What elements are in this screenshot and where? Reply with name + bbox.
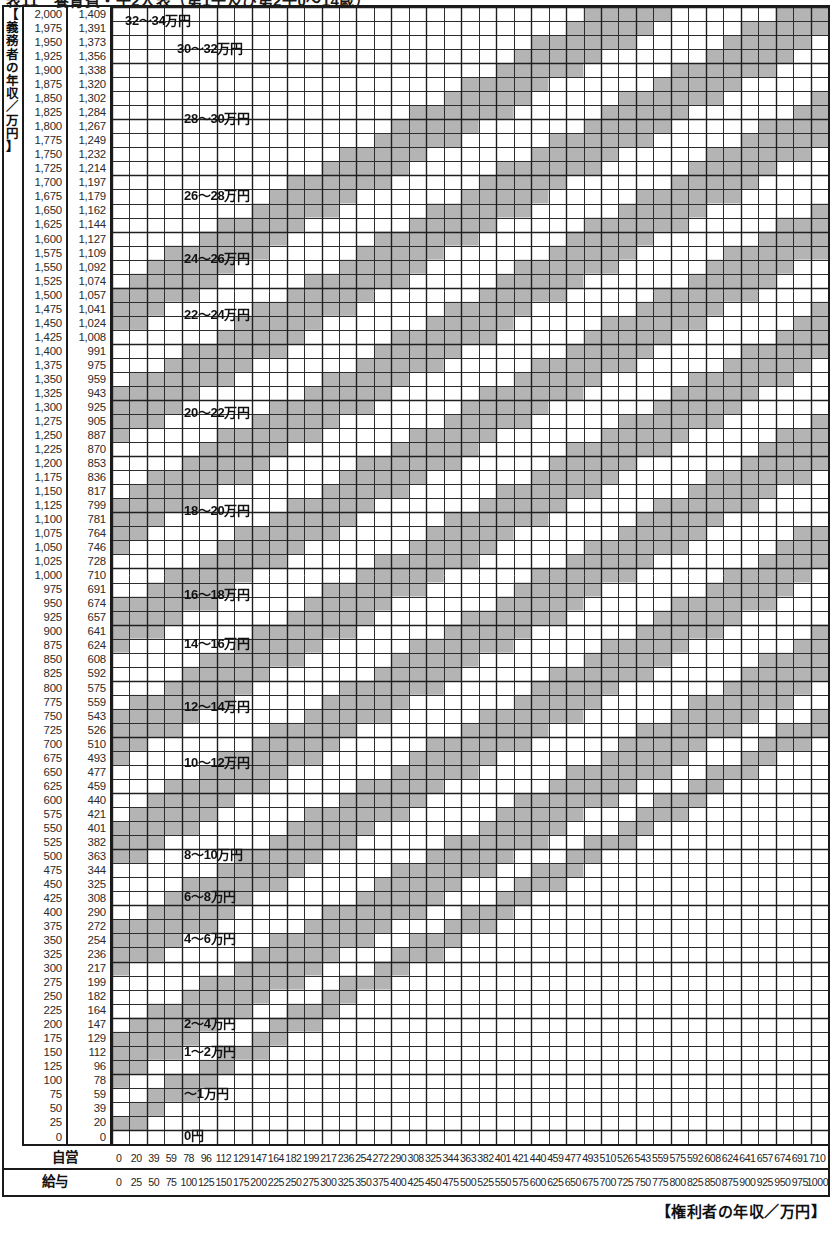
y-axis-salary-tick: 1,175 xyxy=(24,470,66,484)
y-axis-self-employed-tick: 870 xyxy=(68,442,110,456)
y-axis-self-employed-tick: 1,179 xyxy=(68,189,110,203)
y-axis-self-employed-tick: 959 xyxy=(68,372,110,386)
y-axis-self-employed-tick: 1,302 xyxy=(68,91,110,105)
y-axis-salary-tick: 675 xyxy=(24,751,66,765)
y-axis-self-employed-tick: 308 xyxy=(68,891,110,905)
y-axis-salary-tick: 1,675 xyxy=(24,189,66,203)
y-axis-self-employed-tick: 674 xyxy=(68,596,110,610)
band-label: 18～20万円 xyxy=(184,504,250,518)
x-axis-salary-label: 給与 xyxy=(2,1170,108,1194)
y-axis-salary-tick: 1,300 xyxy=(24,400,66,414)
y-axis-caption-char: 万 xyxy=(3,115,22,128)
y-axis-salary-tick: 1,875 xyxy=(24,77,66,91)
y-axis-salary-tick: 1,825 xyxy=(24,105,66,119)
y-axis-salary-tick: 725 xyxy=(24,723,66,737)
y-axis-salary-tick: 1,125 xyxy=(24,498,66,512)
y-axis-salary-tick: 1,050 xyxy=(24,540,66,554)
band-label: 0円 xyxy=(184,1129,204,1143)
y-axis-salary-tick: 575 xyxy=(24,807,66,821)
y-axis-self-employed-tick: 164 xyxy=(68,1003,110,1017)
heatmap-plot-area: 0円～1万円1～2万円2～4万円4～6万円6～8万円8～10万円10～12万円1… xyxy=(110,7,828,1144)
band-label: ～1万円 xyxy=(184,1087,229,1101)
band-label: 32～34万円 xyxy=(125,14,191,28)
y-axis-self-employed-tick: 1,127 xyxy=(68,232,110,246)
y-axis-salary-tick: 125 xyxy=(24,1059,66,1073)
y-axis-self-employed-tick: 710 xyxy=(68,568,110,582)
band-label: 28～30万円 xyxy=(184,112,250,126)
y-axis-self-employed-tick: 543 xyxy=(68,709,110,723)
y-axis-salary-tick: 1,700 xyxy=(24,175,66,189)
y-axis-salary-tick: 1,750 xyxy=(24,147,66,161)
y-axis-self-employed-tick: 746 xyxy=(68,540,110,554)
y-axis-salary-tick: 1,000 xyxy=(24,568,66,582)
y-axis-salary-tick: 1,275 xyxy=(24,414,66,428)
y-axis-salary-tick: 1,925 xyxy=(24,49,66,63)
y-axis-salary-tick: 1,450 xyxy=(24,316,66,330)
y-axis-salary-tick: 1,425 xyxy=(24,330,66,344)
x-axis-salary-tick: 1000 xyxy=(804,1170,830,1194)
y-axis-self-employed-tick: 1,373 xyxy=(68,35,110,49)
y-axis-caption-char: 者 xyxy=(3,49,22,62)
y-axis-salary-tick: 1,800 xyxy=(24,119,66,133)
y-axis-salary-tick: 325 xyxy=(24,947,66,961)
y-axis-self-employed-tick: 382 xyxy=(68,835,110,849)
y-axis-salary-tick: 1,725 xyxy=(24,161,66,175)
band-label: 16～18万円 xyxy=(184,588,250,602)
y-axis-self-employed-column: 1,4091,3911,3731,3561,3381,3201,3021,284… xyxy=(66,7,110,1144)
y-axis-salary-tick: 975 xyxy=(24,582,66,596)
y-axis-salary-tick: 775 xyxy=(24,695,66,709)
y-axis-salary-tick: 700 xyxy=(24,737,66,751)
y-axis-salary-tick: 1,250 xyxy=(24,428,66,442)
y-axis-salary-tick: 175 xyxy=(24,1031,66,1045)
y-axis-self-employed-tick: 78 xyxy=(68,1073,110,1087)
y-axis-self-employed-tick: 325 xyxy=(68,877,110,891)
band-label: 10～12万円 xyxy=(184,756,250,770)
y-axis-self-employed-tick: 1,267 xyxy=(68,119,110,133)
y-axis-salary-tick: 275 xyxy=(24,975,66,989)
y-axis-salary-tick: 525 xyxy=(24,835,66,849)
y-axis-salary-tick: 1,475 xyxy=(24,302,66,316)
y-axis-self-employed-tick: 510 xyxy=(68,737,110,751)
y-axis-salary-tick: 625 xyxy=(24,779,66,793)
y-axis-salary-tick: 1,200 xyxy=(24,456,66,470)
y-axis-caption-char: 務 xyxy=(3,35,22,48)
y-axis-salary-tick: 750 xyxy=(24,709,66,723)
y-axis-salary-tick: 25 xyxy=(24,1115,66,1129)
y-axis-salary-tick: 1,400 xyxy=(24,344,66,358)
y-axis-salary-tick: 1,225 xyxy=(24,442,66,456)
x-axis-caption: 【権利者の年収／万円】 xyxy=(656,1200,827,1221)
y-axis-salary-tick: 1,900 xyxy=(24,63,66,77)
y-axis-self-employed-tick: 1,057 xyxy=(68,288,110,302)
band-label: 20～22万円 xyxy=(184,406,250,420)
y-axis-self-employed-tick: 401 xyxy=(68,821,110,835)
y-axis-self-employed-tick: 817 xyxy=(68,484,110,498)
y-axis-self-employed-tick: 728 xyxy=(68,554,110,568)
y-axis-self-employed-tick: 641 xyxy=(68,624,110,638)
y-axis-salary-tick: 1,150 xyxy=(24,484,66,498)
y-axis-self-employed-tick: 1,338 xyxy=(68,63,110,77)
y-axis-salary-tick: 1,650 xyxy=(24,203,66,217)
y-axis-salary-tick: 1,325 xyxy=(24,386,66,400)
y-axis-self-employed-tick: 1,232 xyxy=(68,147,110,161)
y-axis-self-employed-tick: 836 xyxy=(68,470,110,484)
y-axis-self-employed-tick: 1,409 xyxy=(68,7,110,21)
y-axis-self-employed-tick: 1,391 xyxy=(68,21,110,35)
y-axis-salary-tick: 2,000 xyxy=(24,7,66,21)
y-axis-salary-tick: 400 xyxy=(24,905,66,919)
y-axis-salary-tick: 300 xyxy=(24,961,66,975)
y-axis-self-employed-tick: 1,074 xyxy=(68,274,110,288)
y-axis-self-employed-tick: 764 xyxy=(68,526,110,540)
y-axis-caption: 【義務者の年収／万円】 xyxy=(3,7,22,1167)
band-label: 4～6万円 xyxy=(184,932,236,946)
y-axis-self-employed-tick: 459 xyxy=(68,779,110,793)
y-axis-self-employed-tick: 1,249 xyxy=(68,133,110,147)
band-label: 30～32万円 xyxy=(177,42,243,56)
y-axis-salary-tick: 1,850 xyxy=(24,91,66,105)
y-axis-self-employed-tick: 887 xyxy=(68,428,110,442)
x-axis-self-employed-label: 自営 xyxy=(22,1146,108,1170)
y-axis-self-employed-tick: 526 xyxy=(68,723,110,737)
y-axis-self-employed-tick: 254 xyxy=(68,933,110,947)
y-axis-self-employed-tick: 943 xyxy=(68,386,110,400)
y-axis-salary-tick: 50 xyxy=(24,1101,66,1115)
band-label: 14～16万円 xyxy=(184,637,250,651)
